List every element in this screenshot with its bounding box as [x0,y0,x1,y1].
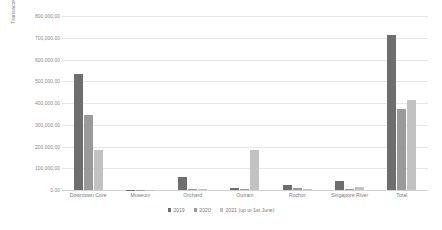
bar [178,177,187,190]
bar [250,150,259,190]
y-axis-tick-label: 600,000.00 [4,57,60,63]
bar-groups [62,16,428,190]
x-axis-tick-label: Museum [114,192,166,198]
bar-group [62,16,114,190]
y-axis-tick-label: 200,000.00 [4,144,60,150]
bar-group [271,16,323,190]
bar [283,185,292,190]
legend-label: 2020 [199,207,211,213]
bar [74,74,83,190]
legend-swatch-icon [194,208,198,212]
bar-chart: Transacted Area (sqft) 800,000.00700,000… [0,0,442,230]
bar [335,181,344,190]
bar [397,109,406,190]
x-axis-tick-label: Downtown Core [62,192,114,198]
bar [84,115,93,190]
bar-group [114,16,166,190]
legend-swatch-icon [168,208,172,212]
legend-label: 2019 [173,207,185,213]
x-axis-tick-label: Total [376,192,428,198]
legend-item: 2021 (up to 1st June) [220,207,275,213]
x-axis-tick-label: Singapore River [323,192,375,198]
bar [240,189,249,190]
bar [230,188,239,190]
legend: 201920202021 (up to 1st June) [0,207,442,213]
bar [94,150,103,190]
y-axis-tick-label: 500,000.00 [4,78,60,84]
bar [345,189,354,190]
x-axis-tick-label: Rochor [271,192,323,198]
legend-item: 2020 [194,207,211,213]
y-axis-tick-label: 400,000.00 [4,100,60,106]
bar [303,189,312,190]
y-axis-tick-label: 300,000.00 [4,122,60,128]
bar [355,187,364,190]
x-axis-tick-label: Outram [219,192,271,198]
bar-group [376,16,428,190]
y-axis-tick-label: 100,000.00 [4,165,60,171]
bar [407,100,416,190]
bar [387,35,396,190]
x-axis-tick-label: Orchard [167,192,219,198]
gridline [62,190,428,191]
bar [188,189,197,190]
x-axis-tick-labels: Downtown CoreMuseumOrchardOutramRochorSi… [62,192,428,198]
bar [198,189,207,190]
y-axis-tick-label: 0.00 [4,187,60,193]
bar-group [219,16,271,190]
y-axis-tick-label: 700,000.00 [4,35,60,41]
bar [293,188,302,190]
y-axis-tick-label: 800,000.00 [4,13,60,19]
legend-item: 2019 [168,207,185,213]
bar-group [323,16,375,190]
plot-area [62,16,428,190]
bar-group [167,16,219,190]
legend-label: 2021 (up to 1st June) [225,207,274,213]
legend-swatch-icon [220,208,224,212]
y-axis-tick-labels: 800,000.00700,000.00600,000.00500,000.00… [0,16,60,190]
